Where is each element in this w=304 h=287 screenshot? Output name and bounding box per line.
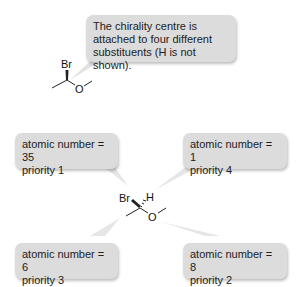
priority-text: priority 1 [22,164,111,177]
atomic-number-text: atomic number = 35 [22,138,111,164]
box-priority-2: atomic number = 8 priority 2 [183,243,287,279]
atomic-number-text: atomic number = 8 [190,248,280,274]
priority-text: priority 4 [190,164,280,177]
atom-h-center: H [146,192,154,203]
callout-line-3: substituents (H is not shown). [93,46,229,72]
center-molecule-bonds [126,208,166,216]
pointer-priority-3 [90,218,120,236]
callout-chirality-centre: The chirality centre is attached to four… [86,15,236,62]
atomic-number-text: atomic number = 6 [22,248,111,274]
callout-line-1: The chirality centre is [93,20,229,33]
atom-br-center: Br [119,193,130,204]
atom-br-top: Br [61,59,72,70]
atom-o-top: O [75,84,84,95]
wedge-bond-top [66,70,69,80]
box-priority-1: atomic number = 35 priority 1 [15,133,118,169]
atom-o-center: O [148,212,157,223]
priority-text: priority 2 [190,274,280,287]
callout-line-2: attached to four different [93,33,229,46]
top-molecule-bonds [52,80,92,88]
priority-text: priority 3 [22,274,111,287]
wedge-bond-center [131,199,141,208]
atomic-number-text: atomic number = 1 [190,138,280,164]
box-priority-3: atomic number = 6 priority 3 [15,243,118,279]
pointer-priority-2 [162,222,220,236]
box-priority-4: atomic number = 1 priority 4 [183,133,287,169]
